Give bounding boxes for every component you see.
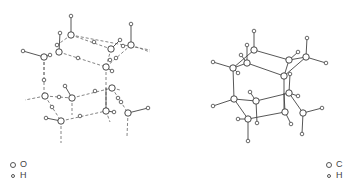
legend-item-hydrogen: H	[10, 170, 27, 181]
hydrogen-atom	[57, 95, 61, 99]
legend-left: O H	[10, 159, 27, 181]
oxygen-atom	[128, 42, 134, 48]
hydrogen-atom	[239, 53, 243, 57]
hydrogen-atom	[21, 49, 25, 53]
hydrogen-bond	[59, 52, 106, 67]
carbon-atom	[251, 47, 257, 53]
hydrogen-atom	[288, 72, 292, 76]
hydrogen-atom	[76, 56, 80, 60]
oxygen-atom	[109, 85, 115, 91]
hydrogen-atom	[93, 89, 97, 93]
oxygen-atom	[68, 32, 74, 38]
carbon-atom	[300, 110, 306, 116]
hydrogen-atom	[112, 110, 116, 114]
hydrogen-atom	[324, 61, 328, 65]
carbon-atom	[244, 60, 250, 66]
small-circle-icon	[11, 174, 15, 178]
legend-item-oxygen: O	[10, 159, 27, 170]
hydrogen-atom	[63, 84, 67, 88]
hydrogen-atom	[211, 60, 215, 64]
hydrogen-atom	[129, 22, 133, 26]
hydrogen-atom	[296, 50, 300, 54]
hydrogen-atom	[92, 40, 96, 44]
oxygen-atom	[42, 93, 48, 99]
hydrogen-atom	[44, 116, 48, 120]
legend-item-carbon: C	[326, 159, 343, 170]
carbon-atom	[282, 109, 288, 115]
hydrogen-atom	[236, 117, 240, 121]
oxygen-atom	[58, 118, 64, 124]
oxygen-atom	[125, 110, 131, 116]
hydrogen-atom	[289, 122, 293, 126]
legend-label: C	[336, 159, 343, 170]
hydrogen-atom	[305, 36, 309, 40]
hydrogen-atom	[252, 29, 256, 33]
covalent-bond	[248, 112, 285, 119]
oxygen-atom	[69, 95, 75, 101]
oxygen-atom	[103, 108, 109, 114]
large-circle-icon	[326, 162, 332, 168]
carbon-framework-structure	[211, 29, 328, 143]
hydrogen-atom	[42, 78, 46, 82]
hydrogen-atom	[118, 38, 122, 42]
hydrogen-atom	[58, 31, 62, 35]
carbon-atom	[253, 98, 259, 104]
hydrogen-atom	[211, 104, 215, 108]
hydrogen-atom	[320, 106, 324, 110]
carbon-atom	[303, 54, 309, 60]
ice-lattice-structure	[21, 14, 150, 143]
oxygen-atom	[108, 46, 114, 52]
legend-item-hydrogen: H	[326, 170, 343, 181]
carbon-atom	[230, 65, 236, 71]
legend-label: H	[336, 170, 343, 181]
carbon-atom	[286, 90, 292, 96]
molecular-structures-diagram	[0, 0, 355, 190]
oxygen-atom	[103, 64, 109, 70]
hydrogen-atom	[246, 139, 250, 143]
legend-label: H	[20, 170, 27, 181]
hydrogen-atom	[110, 69, 114, 73]
hydrogen-atom	[116, 96, 120, 100]
hydrogen-atom	[55, 43, 59, 47]
hydrogen-atom	[255, 121, 259, 125]
hydrogen-atom	[48, 53, 52, 57]
hydrogen-atom	[236, 71, 240, 75]
covalent-bond	[247, 63, 284, 76]
carbon-atom	[286, 57, 292, 63]
hydrogen-atom	[114, 56, 118, 60]
hydrogen-atom	[78, 114, 82, 118]
hydrogen-atom	[300, 132, 304, 136]
carbon-atom	[245, 116, 251, 122]
covalent-bond	[254, 50, 289, 60]
hydrogen-atom	[146, 106, 150, 110]
covalent-bond	[234, 99, 248, 119]
hydrogen-bond	[61, 111, 106, 121]
carbon-atom	[231, 96, 237, 102]
hydrogen-bond	[71, 35, 111, 49]
hydrogen-atom	[69, 14, 73, 18]
hydrogen-atom	[245, 43, 249, 47]
oxygen-atom	[56, 49, 62, 55]
oxygen-atom	[41, 54, 47, 60]
hydrogen-atom	[296, 94, 300, 98]
covalent-bond	[233, 68, 234, 99]
hydrogen-atom	[50, 105, 54, 109]
large-circle-icon	[10, 162, 16, 168]
legend-label: O	[20, 159, 27, 170]
carbon-atom	[281, 73, 287, 79]
hydrogen-atom	[248, 90, 252, 94]
hydrogen-atom	[119, 100, 123, 104]
small-circle-icon	[327, 174, 331, 178]
hydrogen-atom	[121, 44, 125, 48]
legend-right: C H	[326, 159, 343, 181]
hydrogen-atom	[108, 58, 112, 62]
